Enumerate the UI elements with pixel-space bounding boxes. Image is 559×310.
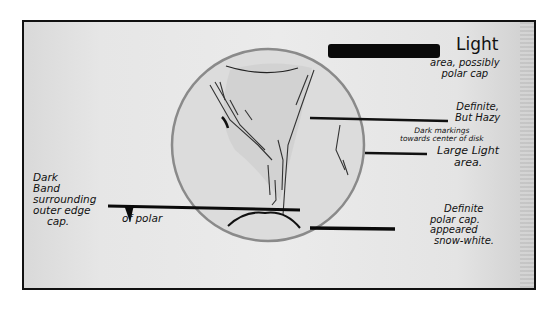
annotation-line: Definite	[430, 204, 494, 215]
annotation-line: Large Light	[437, 145, 499, 157]
annotation-line: area.	[437, 157, 499, 169]
planet-disk	[172, 49, 364, 241]
annotation-light-title: Light	[456, 36, 498, 54]
annotation-dark-band-inline: of polar	[122, 213, 162, 224]
annotation-polar-cap: Definite polar cap. appeared snow-white.	[430, 204, 494, 246]
annotation-line: But Hazy	[455, 113, 500, 124]
light-area-pointer	[328, 44, 440, 58]
annotation-large-light-area: Large Light area.	[437, 145, 499, 168]
polar-cap-pointer	[310, 228, 395, 229]
large-light-pointer	[365, 153, 427, 154]
annotation-line: towards center of disk	[400, 135, 484, 143]
annotation-line: Definite,	[455, 102, 500, 113]
annotation-line: snow-white.	[430, 236, 494, 247]
annotation-dark-band: Dark Band surrounding outer edge cap.	[33, 172, 96, 227]
annotation-hazy-detail: Dark markings towards center of disk	[400, 127, 484, 143]
annotation-light-area: area, possibly polar cap	[430, 58, 500, 79]
annotation-line: cap.	[33, 216, 96, 227]
annotation-line: polar cap	[430, 69, 500, 80]
annotation-line: area, possibly	[430, 58, 500, 69]
annotation-line: appeared	[430, 225, 494, 236]
annotation-hazy-markings: Definite, But Hazy	[455, 102, 500, 123]
